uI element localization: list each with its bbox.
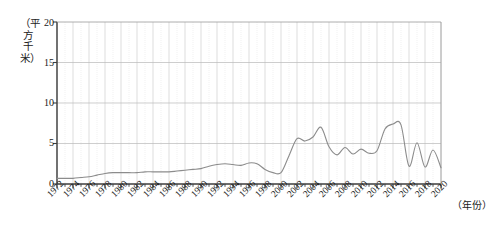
y-tick-label-15: 15 xyxy=(36,57,54,68)
y-tick-label-20: 20 xyxy=(36,17,54,28)
x-axis-title: （年份） xyxy=(452,197,492,212)
y-tick-label-5: 5 xyxy=(36,137,54,148)
y-tick-label-10: 10 xyxy=(36,97,54,108)
y-axis-title: （平方千米） xyxy=(20,18,36,64)
plot-area xyxy=(0,0,493,236)
chart-container: （平方千米） 20 15 10 5 0 19721974197619781980… xyxy=(0,0,493,236)
